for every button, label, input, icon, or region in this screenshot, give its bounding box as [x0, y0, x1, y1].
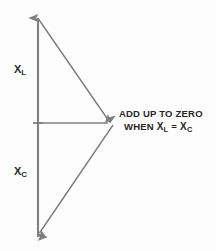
- annotation-equals-operator: =: [168, 121, 180, 132]
- upper-diagonal-line: [39, 19, 109, 121]
- annotation-xc-subscript: C: [187, 125, 193, 134]
- annotation-xc-symbol: X: [180, 121, 187, 132]
- label-inductive-reactance: XL: [14, 64, 26, 77]
- annotation-when-word: WHEN: [124, 121, 154, 132]
- annotation-line-1: ADD UP TO ZERO: [119, 108, 203, 121]
- annotation-xl-symbol: X: [157, 121, 164, 132]
- label-xc-subscript: C: [21, 170, 27, 179]
- annotation-line-2: WHEN XL=XC: [119, 121, 203, 137]
- label-xl-subscript: L: [21, 68, 26, 77]
- lower-diagonal-line: [40, 125, 114, 233]
- label-capacitive-reactance: XC: [14, 166, 27, 179]
- annotation-text-block: ADD UP TO ZERO WHEN XL=XC: [119, 108, 203, 136]
- reactance-vector-diagram: XL XC ADD UP TO ZERO WHEN XL=XC: [0, 0, 216, 251]
